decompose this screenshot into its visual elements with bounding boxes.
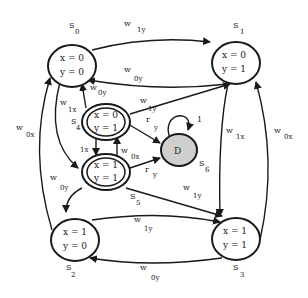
edge-sublabel: 0x	[131, 153, 139, 161]
state-diagram: w 1y w 0y w 0y w 1x w 0x w 1y r y 1x w 0…	[0, 0, 308, 298]
edge-s1-s0	[88, 80, 228, 87]
state-s3: x = 1 y = 1 S 3	[212, 218, 260, 279]
state-value-x: x = 1	[94, 160, 118, 170]
state-name: S	[199, 159, 204, 168]
state-s5: x = 1 y = 1 S 5	[82, 154, 140, 207]
edge-label: w	[121, 146, 128, 155]
edge-s3-s1	[256, 82, 268, 240]
state-sub: 3	[240, 271, 244, 279]
edge-sublabel: 0y	[151, 274, 159, 282]
edge-sublabel: 1x	[68, 106, 76, 114]
state-sub: 0	[75, 28, 79, 36]
edge-label: w	[134, 215, 141, 224]
state-s6: D S 6	[161, 134, 210, 174]
state-value-x: x = 0	[222, 50, 246, 60]
edge-label: w	[124, 65, 131, 74]
edge-sublabel: 1x	[236, 133, 244, 141]
state-value-y: y = 0	[62, 241, 87, 251]
edge-label: r	[145, 165, 149, 174]
state-value-y: y = 1	[221, 64, 246, 74]
state-s2: x = 1 y = 0 S 2	[51, 219, 99, 279]
state-value-y: y = 1	[93, 123, 118, 133]
state-name: S	[130, 192, 135, 201]
edge-s0-s1	[92, 40, 210, 50]
edge-sublabel: 1x	[80, 146, 88, 154]
state-value-x: x = 1	[63, 227, 87, 237]
edge-sublabel: y	[152, 171, 157, 179]
edge-sublabel: 0y	[134, 75, 142, 83]
state-sub: 4	[76, 124, 81, 132]
edge-s1-s3	[220, 84, 228, 216]
edge-label: w	[16, 123, 23, 132]
edge-label: w	[226, 126, 233, 135]
edge-sublabel: 1y	[193, 192, 201, 200]
edge-s2-s3	[92, 215, 220, 222]
state-value: D	[174, 146, 181, 156]
edge-label: 1	[197, 115, 202, 124]
edge-label: w	[140, 96, 147, 105]
edge-s4-s0	[82, 84, 86, 108]
edge-sublabel: 0x	[26, 131, 34, 139]
state-s0: x = 0 y = 0 S 0	[48, 21, 96, 87]
state-s4: x = 0 y = 1 S 4	[71, 104, 130, 140]
edge-sublabel: 1y	[148, 105, 156, 113]
edge-label: w	[50, 173, 57, 182]
edge-sublabel: 1y	[144, 225, 152, 233]
edge-label: w	[274, 126, 281, 135]
state-name: S	[69, 21, 74, 30]
state-sub: 2	[71, 271, 75, 279]
state-sub: 1	[240, 28, 244, 36]
edge-sublabel: 0x	[284, 133, 292, 141]
edge-sublabel: 0y	[60, 184, 68, 192]
edge-label: w	[90, 83, 97, 92]
edge-label: w	[183, 183, 190, 192]
edge-sublabel: 0y	[98, 89, 106, 97]
state-sub: 5	[136, 199, 140, 207]
state-value-y: y = 0	[59, 67, 84, 77]
state-value-y: y = 1	[93, 173, 118, 183]
state-name: S	[233, 21, 238, 30]
edge-sublabel: y	[153, 124, 158, 132]
state-value-x: x = 1	[223, 226, 247, 236]
edge-sublabel: 1y	[137, 26, 145, 34]
state-name: S	[233, 263, 238, 272]
edge-s3-s2	[90, 258, 222, 263]
edge-label: w	[140, 263, 147, 272]
edge-label: w	[60, 98, 67, 107]
state-value-y: y = 1	[222, 240, 247, 250]
edge-label: r	[146, 115, 150, 124]
state-value-x: x = 0	[94, 110, 118, 120]
state-s1: x = 0 y = 1 S 1	[212, 21, 260, 84]
edge-label: w	[124, 19, 131, 28]
edge-s2-s0	[39, 78, 52, 230]
state-sub: 6	[205, 166, 210, 174]
state-value-x: x = 0	[60, 53, 84, 63]
